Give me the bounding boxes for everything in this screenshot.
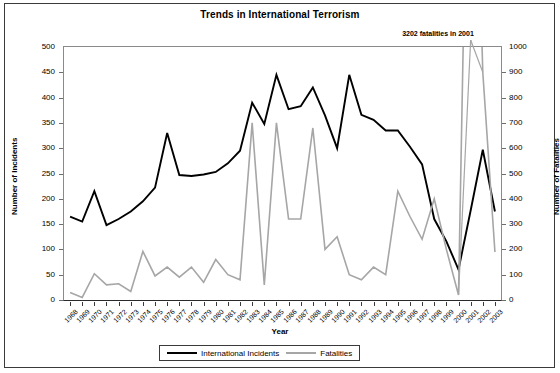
x-tick-mark [228,302,229,306]
x-tick-mark [495,302,496,306]
x-tick-mark [252,302,253,306]
y-tick-label-left: 50 [23,270,55,279]
x-tick-mark [398,302,399,306]
y-tick-mark-right [502,249,506,250]
y-tick-label-right: 300 [509,219,543,228]
x-tick-mark [325,302,326,306]
y-tick-mark-right [502,98,506,99]
x-tick-mark [155,302,156,306]
x-tick-mark [191,302,192,306]
x-tick-mark [167,302,168,306]
y-tick-mark-right [502,224,506,225]
y-tick-label-left: 500 [23,42,55,51]
y-tick-label-right: 0 [509,295,543,304]
x-tick-mark [313,302,314,306]
y-axis-label-left: Number of Incidents [10,138,19,215]
chart-legend: International Incidents Fatalities [159,345,360,361]
y-tick-label-right: 900 [509,67,543,76]
y-tick-label-left: 250 [23,169,55,178]
x-tick-mark [276,302,277,306]
x-tick-mark [471,302,472,306]
x-tick-mark [82,302,83,306]
x-tick-mark [106,302,107,306]
legend-label-fatalities: Fatalities [320,349,352,358]
y-tick-label-right: 200 [509,244,543,253]
y-tick-label-left: 150 [23,219,55,228]
x-tick-mark [386,302,387,306]
y-tick-label-left: 300 [23,143,55,152]
y-tick-label-right: 100 [509,270,543,279]
legend-item-incidents: International Incidents [167,349,279,358]
series-lines [64,47,501,300]
x-tick-mark [216,302,217,306]
x-tick-mark [361,302,362,306]
y-tick-label-right: 1000 [509,42,543,51]
y-tick-mark-right [502,199,506,200]
y-tick-label-left: 100 [23,244,55,253]
y-tick-label-right: 700 [509,118,543,127]
x-tick-mark [70,302,71,306]
x-tick-mark [264,302,265,306]
annotation-2001-fatalities: 3202 fatalities in 2001 [338,30,538,37]
y-tick-label-right: 600 [509,143,543,152]
legend-swatch-fatalities-icon [286,352,316,354]
y-tick-label-left: 400 [23,93,55,102]
y-tick-mark-right [502,72,506,73]
legend-swatch-incidents-icon [167,352,197,354]
x-tick-mark [459,302,460,306]
y-tick-label-left: 450 [23,67,55,76]
x-tick-mark [349,302,350,306]
y-tick-mark-right [502,148,506,149]
x-tick-mark [483,302,484,306]
y-tick-mark-right [502,275,506,276]
x-tick-mark [301,302,302,306]
x-tick-mark [434,302,435,306]
legend-label-incidents: International Incidents [201,349,279,358]
x-tick-mark [337,302,338,306]
x-tick-mark [410,302,411,306]
x-tick-mark [240,302,241,306]
y-tick-label-left: 0 [23,295,55,304]
y-axis-label-right: Number of Fatalities [552,138,560,215]
page-title: Trends in International Terrorism [0,9,560,20]
legend-item-fatalities: Fatalities [286,349,352,358]
y-tick-label-right: 500 [509,169,543,178]
x-tick-mark [131,302,132,306]
y-tick-label-left: 200 [23,194,55,203]
x-tick-mark [422,302,423,306]
x-tick-mark [179,302,180,306]
x-tick-mark [143,302,144,306]
y-tick-mark-right [502,174,506,175]
plot-area [63,46,502,301]
series-line-fatalities [70,47,495,297]
x-tick-mark [446,302,447,306]
y-tick-mark-right [502,123,506,124]
x-tick-mark [204,302,205,306]
y-tick-label-right: 800 [509,93,543,102]
chart-screenshot: Trends in International Terrorism 3202 f… [0,0,560,373]
x-tick-mark [94,302,95,306]
x-tick-mark [374,302,375,306]
y-tick-label-left: 350 [23,118,55,127]
x-tick-mark [119,302,120,306]
y-tick-label-right: 400 [509,194,543,203]
y-tick-mark-right [502,300,506,301]
x-tick-mark [289,302,290,306]
